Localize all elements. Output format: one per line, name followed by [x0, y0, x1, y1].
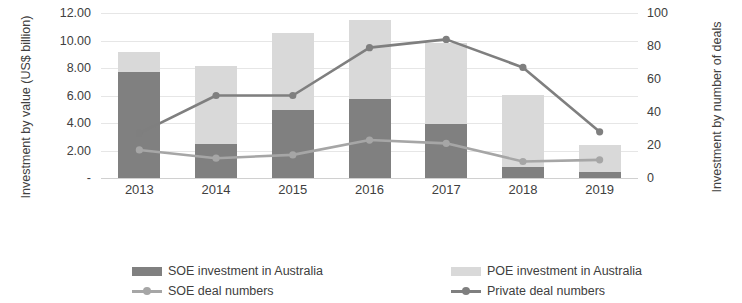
x-axis-tick-label: 2017 [408, 182, 484, 197]
x-axis-tick-label: 2015 [255, 182, 331, 197]
x-axis-tick-label: 2014 [178, 182, 254, 197]
line-marker[interactable] [212, 155, 219, 162]
y-axis-right-tick-label: 80 [647, 40, 687, 53]
legend-item-label: Private deal numbers [487, 284, 605, 298]
x-axis-tick-label: 2016 [332, 182, 408, 197]
line-path [139, 39, 599, 133]
legend-item[interactable]: SOE investment in Australia [132, 264, 323, 278]
y-axis-right-title: Investment by number of deals [710, 12, 724, 202]
y-axis-right-ticks: 020406080100 [647, 13, 687, 178]
line-marker[interactable] [136, 146, 143, 153]
chart-legend: SOE investment in AustraliaPOE investmen… [0, 262, 742, 302]
line-marker[interactable] [519, 64, 526, 71]
y-axis-left-tick-label: - [35, 172, 91, 185]
line-marker[interactable] [596, 128, 603, 135]
legend-item-label: SOE deal numbers [168, 284, 274, 298]
line-series-layer [101, 13, 638, 178]
legend-line-swatch-icon [451, 286, 481, 296]
legend-item[interactable]: POE investment in Australia [451, 264, 642, 278]
y-axis-left-tick-label: 2.00 [35, 145, 91, 158]
y-axis-right-tick-label: 20 [647, 139, 687, 152]
gridline [101, 178, 638, 179]
line-marker[interactable] [289, 92, 296, 99]
legend-bar-swatch-icon [451, 267, 481, 276]
chart-container: Investment by value (US$ billion) Invest… [0, 0, 742, 303]
x-axis-tick-label: 2019 [562, 182, 638, 197]
line-marker[interactable] [212, 92, 219, 99]
legend-line-swatch-icon [132, 286, 162, 296]
line-marker[interactable] [443, 140, 450, 147]
x-axis-tick-label: 2013 [101, 182, 177, 197]
legend-item[interactable]: Private deal numbers [451, 284, 605, 298]
y-axis-left-tick-label: 12.00 [35, 7, 91, 20]
y-axis-left-tick-label: 8.00 [35, 62, 91, 75]
y-axis-right-tick-label: 0 [647, 172, 687, 185]
y-axis-left-tick-label: 10.00 [35, 35, 91, 48]
y-axis-left-tick-label: 4.00 [35, 117, 91, 130]
y-axis-left-ticks: -2.004.006.008.0010.0012.00 [35, 13, 91, 178]
legend-bar-swatch-icon [132, 267, 162, 276]
line-marker[interactable] [519, 158, 526, 165]
x-axis-tick-label: 2018 [485, 182, 561, 197]
legend-item-label: SOE investment in Australia [168, 264, 323, 278]
line-marker[interactable] [366, 44, 373, 51]
line-marker[interactable] [596, 156, 603, 163]
y-axis-left-title: Investment by value (US$ billion) [19, 12, 33, 202]
line-marker[interactable] [366, 136, 373, 143]
line-marker[interactable] [136, 130, 143, 137]
y-axis-right-tick-label: 60 [647, 73, 687, 86]
legend-item[interactable]: SOE deal numbers [132, 284, 274, 298]
legend-item-label: POE investment in Australia [487, 264, 642, 278]
x-axis-labels: 2013201420152016201720182019 [101, 182, 638, 204]
plot-area [101, 13, 638, 178]
y-axis-right-tick-label: 40 [647, 106, 687, 119]
line-marker[interactable] [443, 36, 450, 43]
y-axis-left-tick-label: 6.00 [35, 90, 91, 103]
y-axis-right-tick-label: 100 [647, 7, 687, 20]
line-marker[interactable] [289, 151, 296, 158]
